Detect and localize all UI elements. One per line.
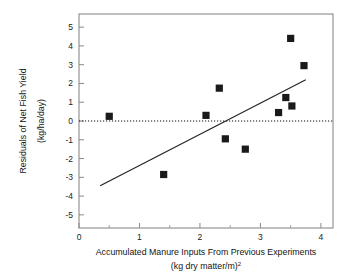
y-tick-label: 1: [68, 97, 73, 107]
y-tick-label: -1: [65, 135, 73, 145]
x-axis-title: Accumulated Manure Inputs From Previous …: [96, 247, 317, 257]
y-axis-units: (kg/ha/day): [36, 99, 46, 143]
y-tick-label: 5: [68, 22, 73, 32]
data-point: [287, 35, 294, 42]
y-tick-label: -2: [65, 154, 73, 164]
x-tick-label: 3: [258, 232, 263, 242]
data-point: [222, 135, 229, 142]
y-axis-title: Residuals of Net Fish Yield: [18, 68, 28, 173]
y-axis-tick-labels: -5-4-3-2-1012345: [65, 22, 73, 220]
x-tick-label: 0: [77, 232, 82, 242]
x-axis-units: (kg dry matter/m)2: [171, 261, 242, 271]
data-point: [275, 109, 282, 116]
data-point: [282, 94, 289, 101]
data-point: [242, 146, 249, 153]
y-tick-label: 2: [68, 78, 73, 88]
data-point: [216, 85, 223, 92]
y-tick-label: 4: [68, 41, 73, 51]
x-tick-label: 2: [198, 232, 203, 242]
chart-figure: -5-4-3-2-1012345 01234 Residuals of Net …: [0, 0, 356, 278]
y-tick-label: -4: [65, 191, 73, 201]
data-point: [160, 171, 167, 178]
x-axis-ticks: [79, 223, 321, 228]
data-point: [202, 112, 209, 119]
data-point: [288, 102, 295, 109]
y-tick-label: 3: [68, 60, 73, 70]
data-point: [106, 113, 113, 120]
regression-line: [100, 80, 306, 186]
scatter-plot: -5-4-3-2-1012345 01234 Residuals of Net …: [0, 0, 356, 278]
x-tick-label: 1: [137, 232, 142, 242]
x-tick-label: 4: [319, 232, 324, 242]
y-tick-label: -5: [65, 210, 73, 220]
y-tick-label: -3: [65, 172, 73, 182]
data-point-group: [106, 35, 308, 178]
x-axis-tick-labels: 01234: [77, 232, 324, 242]
data-point: [300, 62, 307, 69]
y-tick-label: 0: [68, 116, 73, 126]
